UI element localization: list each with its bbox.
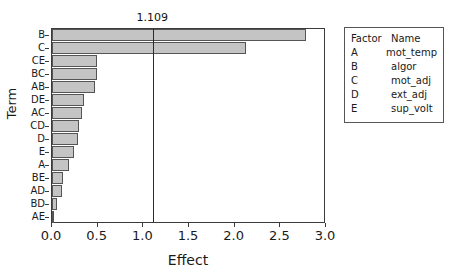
bar-row [52, 159, 324, 172]
y-tick-mark [45, 35, 49, 36]
legend-row: Balgor [351, 60, 437, 74]
bar-row [52, 107, 324, 120]
y-tick-mark [45, 165, 49, 166]
legend-factor-A: A [351, 46, 386, 60]
bar-BD [52, 198, 57, 210]
y-tick-label-DE: DE [31, 93, 45, 106]
x-tick-mark [279, 223, 280, 227]
legend-row: Esup_volt [351, 102, 437, 116]
pareto-chart: Term BCCEBCABDEACCDDEABEADBDAE 1.109 0.0… [0, 0, 340, 280]
y-tick-label-B: B [38, 28, 45, 41]
x-tick-label-1.5: 1.5 [178, 228, 199, 243]
y-tick-mark [45, 100, 49, 101]
x-tick-label-2.0: 2.0 [223, 228, 244, 243]
y-tick-label-C: C [38, 41, 45, 54]
y-tick-mark [45, 152, 49, 153]
y-tick-label-CE: CE [32, 54, 45, 67]
legend-name-C: mot_adj [391, 74, 437, 88]
y-tick-mark [45, 217, 49, 218]
legend-name-E: sup_volt [391, 102, 437, 116]
y-tick-mark [45, 178, 49, 179]
y-tick-label-A: A [38, 158, 45, 171]
bar-row [52, 146, 324, 159]
bar-AC [52, 107, 82, 119]
bar-row [52, 81, 324, 94]
legend-factor-E: E [351, 102, 391, 116]
reference-line [153, 29, 154, 222]
bar-row [52, 120, 324, 133]
y-tick-label-CD: CD [30, 119, 45, 132]
legend-name-B: algor [391, 60, 437, 74]
y-axis-tick-labels: BCCEBCABDEACCDDEABEADBDAE [0, 28, 49, 223]
y-tick-mark [45, 87, 49, 88]
bar-DE [52, 94, 84, 106]
x-tick-label-2.5: 2.5 [269, 228, 290, 243]
y-tick-label-D: D [37, 132, 45, 145]
x-tick-label-1.0: 1.0 [132, 228, 153, 243]
bar-row [52, 29, 324, 42]
y-tick-label-BC: BC [31, 67, 45, 80]
legend-row: Dext_adj [351, 88, 437, 102]
x-tick-label-3.0: 3.0 [315, 228, 336, 243]
bar-row [52, 185, 324, 198]
x-tick-mark [325, 223, 326, 227]
y-tick-mark [45, 61, 49, 62]
legend-header-factor: Factor [351, 32, 391, 46]
x-axis-title: Effect [51, 252, 325, 268]
bar-CE [52, 55, 97, 67]
legend-header-row: Factor Name [351, 32, 437, 46]
bar-row [52, 172, 324, 185]
y-tick-label-AB: AB [31, 80, 45, 93]
y-tick-mark [45, 74, 49, 75]
bar-AB [52, 81, 95, 93]
bar-B [52, 29, 306, 41]
legend-factor-D: D [351, 88, 391, 102]
x-axis-ticks: 0.00.51.01.52.02.53.0 [51, 223, 325, 229]
bar-AD [52, 185, 62, 197]
legend-factor-C: C [351, 74, 391, 88]
bar-row [52, 198, 324, 211]
y-tick-mark [45, 191, 49, 192]
y-tick-label-BD: BD [30, 197, 45, 210]
legend-row: Cmot_adj [351, 74, 437, 88]
bar-AE [52, 211, 54, 223]
legend-row: Amot_temp [351, 46, 437, 60]
plot-area [51, 28, 325, 223]
bar-BC [52, 68, 97, 80]
bar-D [52, 133, 78, 145]
bar-row [52, 68, 324, 81]
x-tick-mark [188, 223, 189, 227]
bar-C [52, 42, 246, 54]
legend-factor-B: B [351, 60, 391, 74]
y-tick-mark [45, 113, 49, 114]
x-tick-mark [51, 223, 52, 227]
reference-line-label: 1.109 [137, 11, 169, 24]
y-tick-mark [45, 48, 49, 49]
bar-CD [52, 120, 79, 132]
x-tick-mark [142, 223, 143, 227]
y-tick-label-AD: AD [30, 184, 45, 197]
bar-BE [52, 172, 63, 184]
bar-A [52, 159, 69, 171]
factor-legend: Factor Name Amot_tempBalgorCmot_adjDext_… [344, 27, 444, 123]
bar-E [52, 146, 74, 158]
x-tick-mark [97, 223, 98, 227]
y-tick-mark [45, 139, 49, 140]
y-tick-mark [45, 204, 49, 205]
legend-name-A: mot_temp [386, 46, 437, 60]
bar-row [52, 55, 324, 68]
x-tick-mark [234, 223, 235, 227]
legend-name-D: ext_adj [391, 88, 437, 102]
bar-row [52, 133, 324, 146]
x-tick-label-0.0: 0.0 [41, 228, 62, 243]
bar-row [52, 42, 324, 55]
y-tick-label-AE: AE [32, 210, 45, 223]
x-tick-label-0.5: 0.5 [86, 228, 107, 243]
bar-row [52, 94, 324, 107]
y-tick-label-BE: BE [32, 171, 45, 184]
legend-header-name: Name [391, 32, 437, 46]
y-tick-label-AC: AC [31, 106, 45, 119]
y-tick-mark [45, 126, 49, 127]
bar-series [52, 29, 324, 222]
